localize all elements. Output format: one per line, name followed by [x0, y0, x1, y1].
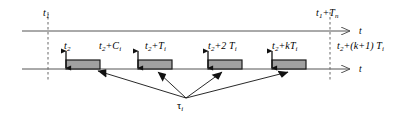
label-t2-plus-Ci: t2+Ci — [99, 41, 121, 51]
tau-leader-4 — [186, 72, 288, 98]
label-t1-plus-Tn: t1+Tn — [316, 8, 339, 18]
tau-label: τi — [177, 101, 183, 112]
label-t1: t1 — [43, 8, 50, 18]
label-t2-plus-k-plus-1-Ti: t2+(k+1) Ti — [337, 41, 384, 51]
timing-diagram: t1 t1+Tn t t2 t2+Ci t2+Ti t2+2 Ti t2+kTi… — [0, 0, 401, 118]
label-t2-plus-2Ti: t2+2 Ti — [208, 41, 237, 51]
label-t2: t2 — [64, 41, 71, 51]
label-t2-plus-kTi: t2+kTi — [272, 41, 298, 51]
top-axis-name: t — [359, 27, 362, 37]
execution-bar-job-3 — [208, 60, 242, 69]
execution-bar-job-1 — [66, 60, 100, 69]
bottom-axis-name: t — [359, 65, 362, 75]
execution-bar-job-2 — [138, 60, 172, 69]
label-t2-plus-Ti: t2+Ti — [145, 41, 166, 51]
execution-bar-job-4 — [272, 60, 306, 69]
tau-leader-3 — [186, 72, 222, 98]
diagram-canvas — [0, 0, 401, 118]
tau-leader-1 — [98, 71, 186, 98]
